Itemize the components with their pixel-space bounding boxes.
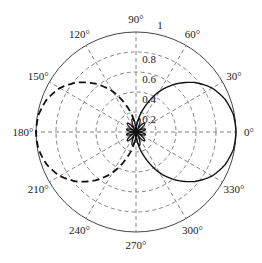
grid-spoke bbox=[136, 132, 186, 219]
angle-tick-label: 30° bbox=[226, 70, 241, 82]
grid-spoke bbox=[49, 82, 136, 132]
radial-tick-label: 0.2 bbox=[142, 113, 156, 125]
grid-spoke bbox=[86, 132, 136, 219]
angle-tick-label: 0° bbox=[244, 126, 254, 138]
angle-tick-label: 60° bbox=[185, 28, 200, 40]
radial-tick-label: 1 bbox=[157, 19, 163, 31]
grid-spoke bbox=[136, 132, 223, 182]
angle-tick-label: 120° bbox=[69, 28, 90, 40]
angle-tick-label: 300° bbox=[182, 224, 203, 236]
angle-tick-label: 210° bbox=[28, 183, 49, 195]
angle-tick-label: 270° bbox=[126, 239, 147, 251]
angle-tick-label: 240° bbox=[69, 224, 90, 236]
angle-tick-label: 90° bbox=[128, 13, 143, 25]
angle-tick-label: 330° bbox=[223, 183, 244, 195]
radial-tick-label: 0.6 bbox=[142, 73, 156, 85]
grid-spoke bbox=[86, 45, 136, 132]
angle-tick-label: 150° bbox=[28, 70, 49, 82]
angle-tick-label: 180° bbox=[13, 126, 34, 138]
radial-tick-label: 0.4 bbox=[142, 93, 156, 105]
polar-chart: 0°30°60°90°120°150°180°210°240°270°300°3… bbox=[0, 0, 262, 263]
grid-spoke bbox=[49, 132, 136, 182]
radial-tick-label: 0.8 bbox=[142, 53, 156, 65]
